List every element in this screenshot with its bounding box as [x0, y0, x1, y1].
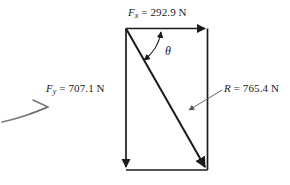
theta-label: θ: [165, 44, 171, 59]
resultant-label-leader: [189, 90, 222, 110]
fx-value: 292.9: [151, 6, 176, 18]
fy-equals: =: [56, 82, 68, 94]
fx-label: Fx = 292.9 N: [128, 6, 187, 20]
fx-unit: N: [179, 6, 187, 18]
fy-value: 707.1: [69, 82, 94, 94]
force-vector-diagram: Fx = 292.9 N Fy = 707.1 N R = 765.4 N θ: [0, 0, 290, 185]
handdrawn-pointer-arrowhead: [30, 100, 48, 114]
resultant-label: R = 765.4 N: [224, 82, 279, 94]
fx-equals: =: [138, 6, 150, 18]
resultant-unit: N: [271, 82, 279, 94]
fy-unit: N: [97, 82, 105, 94]
resultant-value: 765.4: [243, 82, 268, 94]
fx-symbol: F: [128, 6, 135, 18]
fy-label: Fy = 707.1 N: [46, 82, 105, 96]
resultant-equals: =: [231, 82, 243, 94]
fy-symbol: F: [46, 82, 53, 94]
theta-angle-arc: [144, 32, 161, 60]
resultant-symbol: R: [224, 82, 231, 94]
